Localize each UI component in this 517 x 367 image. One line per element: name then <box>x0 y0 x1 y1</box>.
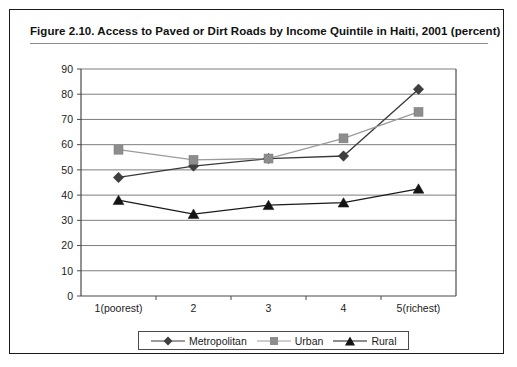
legend-item-urban: Urban <box>257 335 324 347</box>
data-point-urban-4 <box>339 134 348 143</box>
y-axis-tick-label: 20 <box>61 239 73 251</box>
data-point-metropolitan-1(poorest) <box>113 172 123 182</box>
x-axis-tick-label: 3 <box>266 302 272 314</box>
gridlines-group <box>81 69 456 271</box>
y-axis-tick-label: 80 <box>61 88 73 100</box>
data-point-urban-2 <box>189 155 198 164</box>
triangle-marker-icon <box>333 335 367 347</box>
series-markers-group <box>113 84 424 218</box>
legend-label-urban: Urban <box>295 335 324 347</box>
x-axis-tick-label: 2 <box>191 302 197 314</box>
data-point-rural-1(poorest) <box>113 195 124 204</box>
square-marker-icon <box>257 335 291 347</box>
series-line-metropolitan <box>119 89 419 177</box>
chart-plot-area: 0102030405060708090 1(poorest)2345(riche… <box>10 10 505 355</box>
x-axis-tick-label: 5(richest) <box>397 302 441 314</box>
legend-item-rural: Rural <box>333 335 396 347</box>
y-axis-tick-label: 50 <box>61 164 73 176</box>
y-axis-tick-labels: 0102030405060708090 <box>61 63 73 302</box>
chart-legend: Metropolitan Urban Rural <box>138 331 409 350</box>
data-point-urban-5(richest) <box>414 107 423 116</box>
y-axis-tick-label: 10 <box>61 265 73 277</box>
axes-group <box>77 69 456 300</box>
y-axis-tick-label: 0 <box>67 290 73 302</box>
y-axis-tick-label: 90 <box>61 63 73 75</box>
y-axis-tick-label: 30 <box>61 214 73 226</box>
data-point-urban-3 <box>264 154 273 163</box>
diamond-marker-icon <box>151 335 185 347</box>
legend-item-metropolitan: Metropolitan <box>151 335 247 347</box>
figure-frame: Figure 2.10. Access to Paved or Dirt Roa… <box>9 9 504 354</box>
data-point-urban-1(poorest) <box>114 145 123 154</box>
x-axis-tick-label: 1(poorest) <box>95 302 143 314</box>
x-axis-tick-label: 4 <box>341 302 347 314</box>
legend-label-rural: Rural <box>371 335 396 347</box>
y-axis-tick-label: 40 <box>61 189 73 201</box>
y-axis-tick-label: 60 <box>61 138 73 150</box>
legend-label-metropolitan: Metropolitan <box>189 335 247 347</box>
data-point-rural-5(richest) <box>413 184 424 193</box>
y-axis-tick-label: 70 <box>61 113 73 125</box>
line-chart-svg: 0102030405060708090 1(poorest)2345(riche… <box>10 10 505 355</box>
x-axis-tick-labels: 1(poorest)2345(richest) <box>95 302 441 314</box>
